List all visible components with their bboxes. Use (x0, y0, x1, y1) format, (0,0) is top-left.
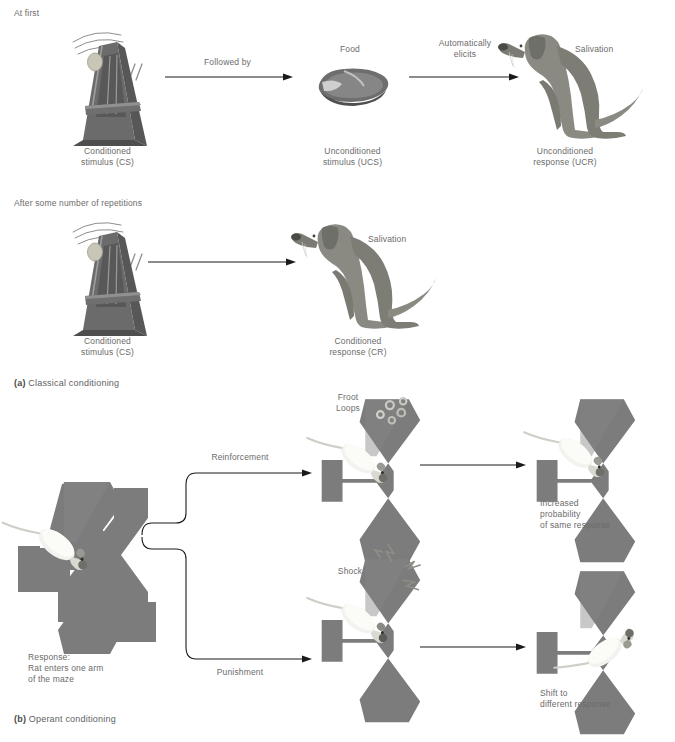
label-food: Food (310, 44, 390, 55)
maze-reinforcement (318, 388, 458, 568)
label-salivation-2: Salivation (368, 234, 406, 245)
branch-brace-and-arrows (140, 455, 325, 695)
row-heading-at-first: At first (14, 8, 39, 19)
maze-outcome-increased (533, 388, 673, 568)
arrow-followed-by (165, 70, 295, 84)
dog-illustration (495, 24, 645, 149)
panel-a-caption: (a) Classical conditioning (14, 378, 119, 388)
label-outcome-increased: Increased probability of same response (540, 498, 610, 531)
label-outcome-shift: Shift to different response (540, 688, 611, 710)
metronome-illustration (55, 22, 160, 152)
panel-b-marker: (b) (14, 714, 26, 724)
conditioning-figure: At first Conditioned stimulus (CS) Follo… (0, 0, 675, 742)
label-froot-loops: Froot Loops (322, 392, 374, 414)
dog-illustration-2 (288, 214, 438, 339)
food-steak-illustration (312, 62, 394, 110)
row-heading-after-repetitions: After some number of repetitions (14, 198, 142, 209)
arrow-reinforcement-outcome (420, 458, 528, 472)
arrow-label-reinforcement: Reinforcement (180, 452, 300, 463)
metronome-illustration-2 (55, 212, 160, 342)
panel-a-marker: (a) (14, 378, 26, 388)
arrow-punishment-outcome (420, 640, 528, 654)
label-ucr: Unconditioned response (UCR) (505, 146, 625, 168)
maze-outcome-shift (533, 560, 673, 740)
label-salivation-1: Salivation (575, 44, 613, 55)
label-ucs: Unconditioned stimulus (UCS) (300, 146, 405, 168)
arrow-label-followed-by: Followed by (170, 57, 285, 68)
panel-b-caption: (b) Operant conditioning (14, 714, 116, 724)
label-cs-1: Conditioned stimulus (CS) (55, 146, 160, 168)
label-response-start: Response: Rat enters one arm of the maze (28, 652, 103, 685)
panel-b-caption-text: Operant conditioning (29, 714, 116, 724)
label-cr: Conditioned response (CR) (298, 336, 418, 358)
arrow-label-punishment: Punishment (180, 667, 300, 678)
arrow-cs-to-cr (148, 255, 298, 269)
label-shock: Shock (326, 566, 374, 577)
panel-a-caption-text: Classical conditioning (28, 378, 119, 388)
maze-start (18, 470, 158, 660)
label-cs-2: Conditioned stimulus (CS) (55, 336, 160, 358)
